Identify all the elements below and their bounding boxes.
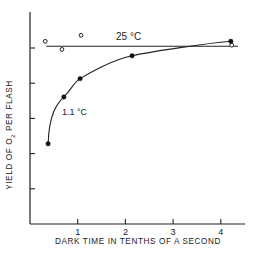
x-axis-title: DARK TIME IN TENTHS OF A SECOND xyxy=(55,237,221,246)
data-point-1-1c xyxy=(62,95,66,99)
y-axis-title-post: PER FLASH xyxy=(5,80,14,134)
x-ticks: 1234 xyxy=(75,219,223,237)
data-point-1-1c xyxy=(229,39,233,43)
series-labels: 25 °C 1.1 °C xyxy=(62,31,141,117)
series-points xyxy=(43,33,233,146)
y-axis-title-pre: YIELD OF O xyxy=(5,138,14,190)
data-point-1-1c xyxy=(78,76,82,80)
data-point-25c xyxy=(43,39,47,43)
y-ticks xyxy=(30,48,35,189)
data-point-25c xyxy=(79,33,83,37)
x-tick-label: 1 xyxy=(75,227,80,237)
x-tick-label: 3 xyxy=(171,227,176,237)
series-curves xyxy=(46,41,238,143)
data-point-25c xyxy=(230,43,234,47)
data-point-1-1c xyxy=(46,142,50,146)
axes xyxy=(30,12,245,224)
series-label-1-1c: 1.1 °C xyxy=(62,107,88,117)
data-point-1-1c xyxy=(130,54,134,58)
chart: 1234 25 °C 1.1 °C DARK TIME IN TENTHS OF… xyxy=(0,0,255,263)
data-point-25c xyxy=(60,48,64,52)
x-tick-label: 2 xyxy=(123,227,128,237)
y-axis-title: YIELD OF O2 PER FLASH xyxy=(5,80,16,190)
x-tick-label: 4 xyxy=(218,227,223,237)
fit-curve-1-1c xyxy=(48,41,231,143)
series-label-25c: 25 °C xyxy=(116,31,141,42)
